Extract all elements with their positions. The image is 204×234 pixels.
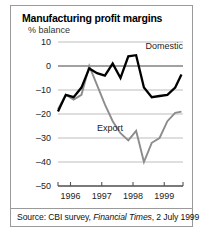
source-suffix: , 2 July 1999	[152, 212, 199, 222]
annotation-export: Export	[97, 123, 124, 133]
y-axis-tick-labels: 100–10–20–30–40–50	[36, 37, 51, 191]
series-line-domestic	[58, 55, 181, 111]
y-tick-label: –40	[36, 157, 51, 167]
plot-area: 100–10–20–30–40–50 1996199719981999 Dome…	[11, 34, 192, 199]
source-note: Source: CBI survey, Financial Times, 2 J…	[17, 212, 199, 222]
annotation-domestic: Domestic	[145, 41, 183, 51]
x-tick-label: 1998	[123, 191, 143, 199]
x-axis-tick-labels: 1996199719981999	[60, 191, 174, 199]
x-tick-label: 1999	[154, 191, 174, 199]
gridlines	[58, 42, 183, 186]
x-tick-label: 1996	[60, 191, 80, 199]
y-tick-label: 10	[41, 37, 51, 47]
chart-figure: Manufacturing profit margins % balance 1…	[10, 5, 193, 227]
y-tick-label: –20	[36, 109, 51, 119]
y-tick-label: –10	[36, 85, 51, 95]
y-tick-label: –30	[36, 133, 51, 143]
y-tick-label: 0	[46, 61, 51, 71]
source-publication: Financial Times	[93, 212, 152, 222]
source-divider	[11, 208, 192, 209]
source-prefix: Source: CBI survey,	[17, 212, 93, 222]
x-tick-label: 1997	[92, 191, 112, 199]
y-tick-label: –50	[36, 181, 51, 191]
chart-svg: 100–10–20–30–40–50 1996199719981999 Dome…	[11, 34, 192, 199]
chart-title: Manufacturing profit margins	[22, 12, 162, 24]
x-axis-ticks	[58, 182, 183, 186]
